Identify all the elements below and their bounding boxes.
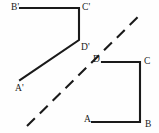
vertex-label-a: A (84, 115, 91, 125)
geometry-figure: B' C' D' A' D C A B (0, 0, 159, 133)
line-of-reflection (27, 13, 142, 126)
vertex-label-d-prime: D' (81, 43, 90, 53)
vertex-label-b-prime: B' (11, 3, 19, 13)
vertex-label-c: C (144, 57, 151, 67)
vertex-label-a-prime: A' (15, 84, 24, 94)
vertex-label-d: D (93, 55, 100, 65)
figure-canvas (0, 0, 159, 133)
vertex-label-c-prime: C' (82, 3, 90, 13)
image-trapezoid (20, 8, 79, 80)
vertex-label-b: B (145, 120, 152, 130)
preimage-trapezoid (92, 62, 140, 122)
